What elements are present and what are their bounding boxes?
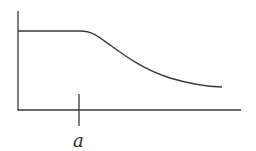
function-diagram: a [0,0,256,151]
function-curve [18,31,222,87]
x-tick-label: a [73,130,84,151]
